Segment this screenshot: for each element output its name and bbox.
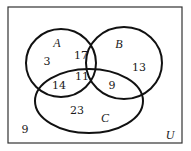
region-c-only: 23 bbox=[70, 104, 84, 117]
set-c-label: C bbox=[101, 111, 110, 125]
venn-diagram: A B C U 3 17 13 11 14 9 23 9 bbox=[0, 0, 191, 151]
region-a-only: 3 bbox=[44, 55, 51, 68]
universe-label: U bbox=[166, 128, 176, 142]
region-a-b-c: 11 bbox=[75, 70, 89, 83]
universe-rectangle bbox=[8, 7, 182, 143]
set-b-label: B bbox=[115, 37, 123, 51]
set-a-label: A bbox=[52, 36, 61, 50]
set-b-ellipse bbox=[86, 27, 162, 99]
region-outside: 9 bbox=[22, 123, 29, 136]
region-a-and-b: 17 bbox=[74, 49, 88, 62]
region-b-and-c: 9 bbox=[109, 79, 116, 92]
region-b-only: 13 bbox=[132, 61, 146, 74]
region-a-and-c: 14 bbox=[52, 79, 66, 92]
